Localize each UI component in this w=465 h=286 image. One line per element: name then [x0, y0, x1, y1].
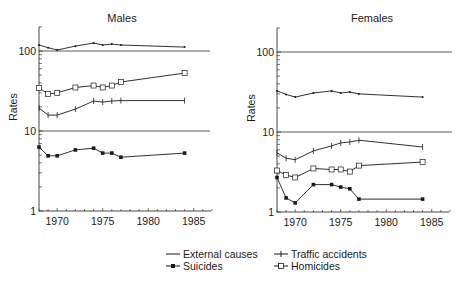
y-tick-label: 100 — [18, 45, 36, 57]
x-tick-label: 1975 — [91, 215, 115, 227]
line-marker-icon — [166, 250, 180, 258]
y-tick-label: 10 — [262, 126, 274, 138]
series-external-causes — [38, 42, 186, 51]
x-tick-label: 1980 — [137, 215, 161, 227]
legend-item-homicides: Homicides — [274, 260, 340, 272]
panel-title: Females — [351, 12, 394, 24]
series-external-causes — [276, 90, 424, 98]
legend-item-traffic-accidents: Traffic accidents — [274, 248, 367, 260]
series-traffic-accidents — [277, 137, 423, 163]
chart-canvas: MalesRates1101001970197519801985FemalesR… — [0, 0, 465, 286]
x-tick-label: 1970 — [46, 215, 70, 227]
y-tick-label: 100 — [256, 46, 274, 58]
figure: MalesRates1101001970197519801985FemalesR… — [0, 0, 465, 286]
x-tick-label: 1970 — [284, 216, 308, 228]
plus-marker-icon — [274, 250, 288, 258]
y-tick-label: 1 — [30, 205, 36, 217]
legend-label: Traffic accidents — [291, 248, 367, 260]
x-tick-label: 1980 — [375, 216, 399, 228]
series-suicides — [37, 145, 186, 159]
series-traffic-accidents — [39, 98, 185, 119]
y-tick-label: 10 — [24, 125, 36, 137]
square-marker-icon — [274, 262, 288, 270]
x-tick-label: 1975 — [329, 216, 353, 228]
legend-label: External causes — [183, 248, 258, 260]
star-marker-icon — [166, 262, 180, 270]
series-homicides — [37, 71, 188, 97]
legend-item-external-causes: External causes — [166, 248, 258, 260]
series-homicides — [275, 160, 426, 180]
legend: External causes Suicides Traffic acciden… — [166, 248, 406, 282]
panel-males: MalesRates1101001970197519801985 — [7, 12, 212, 227]
legend-label: Homicides — [291, 260, 340, 272]
legend-item-suicides: Suicides — [166, 260, 223, 272]
panel-females: FemalesRates1101001970197519801985 — [245, 12, 452, 228]
legend-label: Suicides — [183, 260, 223, 272]
y-axis-label: Rates — [7, 93, 19, 120]
y-tick-label: 1 — [268, 206, 274, 218]
y-axis-label: Rates — [245, 94, 257, 121]
x-tick-label: 1985 — [420, 216, 444, 228]
panel-title: Males — [107, 12, 137, 24]
x-tick-label: 1985 — [182, 215, 206, 227]
